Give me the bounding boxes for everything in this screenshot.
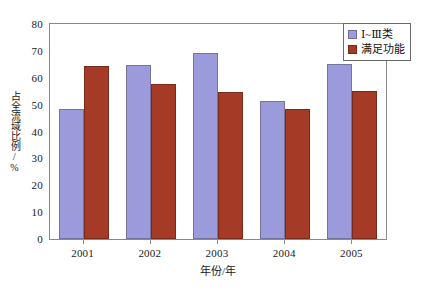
bar-chart: 占全流域比例/% 80706050403020100 2001200220032…	[0, 0, 437, 297]
bar-Ⅰ~Ⅲ类-2003	[193, 53, 218, 239]
y-axis-tick-label: 30	[32, 153, 43, 164]
y-axis-tick-label: 10	[32, 207, 43, 218]
y-axis-tick-label: 20	[32, 180, 43, 191]
bar-Ⅰ~Ⅲ类-2001	[59, 109, 84, 239]
bar-group	[117, 24, 184, 239]
x-axis-tick-mark	[284, 240, 285, 244]
legend-swatch-icon	[348, 30, 357, 39]
bar-group	[50, 24, 117, 239]
x-axis-tick-mark	[217, 240, 218, 244]
legend-item[interactable]: Ⅰ~Ⅲ类	[348, 27, 405, 42]
y-axis-tick-label: 40	[32, 126, 43, 137]
legend-item-label: Ⅰ~Ⅲ类	[361, 28, 393, 41]
bar-Ⅰ~Ⅲ类-2004	[260, 101, 285, 239]
x-axis-tick-label-2003: 2003	[206, 247, 229, 259]
x-axis-tick-label-2004: 2004	[273, 247, 296, 259]
y-axis-tick-label: 50	[32, 99, 43, 110]
bar-满足功能-2004	[285, 109, 310, 239]
x-axis-tick-mark	[150, 240, 151, 244]
y-axis-tick-label: 0	[37, 234, 43, 245]
y-axis-tick-label: 70	[32, 45, 43, 56]
x-axis-tick-label-2005: 2005	[340, 247, 363, 259]
bar-满足功能-2001	[84, 66, 109, 239]
y-axis-tick-label: 80	[32, 19, 43, 30]
y-axis-tick-label: 60	[32, 72, 43, 83]
bar-满足功能-2005	[352, 91, 377, 239]
x-axis: 20012002200320042005	[49, 240, 387, 262]
y-axis: 80706050403020100	[0, 23, 49, 240]
legend: Ⅰ~Ⅲ类满足功能	[343, 23, 411, 61]
bar-满足功能-2003	[218, 92, 243, 239]
bar-group	[252, 24, 319, 239]
bar-Ⅰ~Ⅲ类-2005	[327, 64, 352, 239]
x-axis-tick-mark	[351, 240, 352, 244]
legend-item[interactable]: 满足功能	[348, 42, 405, 57]
bars-layer	[50, 24, 386, 239]
bar-满足功能-2002	[151, 84, 176, 239]
x-axis-title: 年份/年	[49, 265, 387, 278]
legend-swatch-icon	[348, 45, 357, 54]
x-axis-tick-mark	[83, 240, 84, 244]
x-axis-tick-label-2001: 2001	[71, 247, 94, 259]
x-axis-tick-label-2002: 2002	[138, 247, 161, 259]
bar-group	[184, 24, 251, 239]
bar-Ⅰ~Ⅲ类-2002	[126, 65, 151, 239]
legend-item-label: 满足功能	[361, 43, 405, 56]
